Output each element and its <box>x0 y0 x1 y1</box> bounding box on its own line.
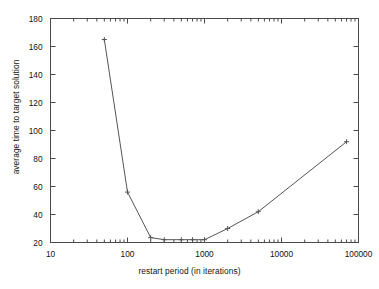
data-point-marker <box>179 237 184 242</box>
plot-canvas: 20406080100120140160180 1010010001000010… <box>0 0 379 289</box>
data-point-marker <box>125 190 130 195</box>
y-tick-label: 40 <box>33 210 43 220</box>
data-point-marker <box>162 237 167 242</box>
x-tick-label: 100000 <box>345 249 373 259</box>
y-axis-title: average time to target solution <box>11 17 21 217</box>
data-point-marker <box>225 226 230 231</box>
y-tick-label: 80 <box>33 154 43 164</box>
data-point-marker <box>148 235 153 240</box>
y-tick-label: 140 <box>29 70 43 80</box>
y-tick-label: 60 <box>33 182 43 192</box>
data-point-marker <box>102 37 107 42</box>
x-tick-label: 1000 <box>195 249 214 259</box>
minor-tick-group <box>74 19 355 243</box>
data-point-marker <box>190 237 195 242</box>
x-axis-title: restart period (in iterations) <box>0 266 379 276</box>
axis-frame <box>51 19 359 243</box>
x-tick-label: 100 <box>121 249 135 259</box>
y-tick-label: 120 <box>29 98 43 108</box>
x-axis-tick-group: 10100100010000100000 <box>46 19 373 259</box>
data-line <box>104 40 346 240</box>
y-tick-label: 180 <box>29 14 43 24</box>
x-tick-label: 10000 <box>270 249 293 259</box>
chart-figure: average time to target solution restart … <box>0 0 379 289</box>
y-axis-tick-group: 20406080100120140160180 <box>29 14 359 248</box>
data-point-marker <box>202 237 207 242</box>
x-tick-label: 10 <box>46 249 56 259</box>
y-tick-label: 160 <box>29 42 43 52</box>
data-series-layer <box>102 37 349 242</box>
y-tick-label: 20 <box>33 238 43 248</box>
y-tick-label: 100 <box>29 126 43 136</box>
